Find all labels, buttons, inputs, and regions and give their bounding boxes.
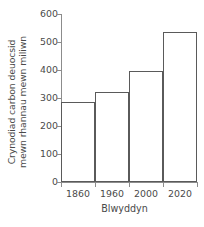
x-tick-mark-3: [163, 182, 164, 187]
bar-2020: [163, 32, 197, 182]
y-tick-label-300: 300: [32, 93, 58, 103]
x-axis-tick-labels: 1860 1960 2000 2020: [58, 188, 201, 202]
x-tick-mark-2: [129, 182, 130, 187]
bar-chart-figure: Crynodiad carbon deuocsid mewn rhannau m…: [0, 0, 204, 227]
y-tick-label-100: 100: [32, 149, 58, 159]
bar-2000: [129, 71, 163, 182]
y-axis-tick-labels: 600 500 400 300 200 100 0: [32, 0, 58, 195]
bar-1960: [95, 92, 129, 182]
plot-area: [61, 14, 197, 182]
bar-series: [61, 14, 197, 182]
y-tick-label-200: 200: [32, 121, 58, 131]
x-tick-mark-0: [61, 182, 62, 187]
x-tick-mark-1: [95, 182, 96, 187]
y-axis-title-container: Crynodiad carbon deuocsid mewn rhannau m…: [0, 0, 34, 190]
y-axis-title: Crynodiad carbon deuocsid mewn rhannau m…: [0, 27, 34, 177]
y-tick-label-0: 0: [32, 177, 58, 187]
x-axis-title: Blwyddyn: [45, 203, 204, 215]
y-tick-label-400: 400: [32, 65, 58, 75]
bar-1860: [61, 102, 95, 182]
y-tick-label-500: 500: [32, 37, 58, 47]
x-tick-mark-4: [197, 182, 198, 187]
y-tick-label-600: 600: [32, 9, 58, 19]
x-tick-label-2020: 2020: [160, 188, 200, 200]
